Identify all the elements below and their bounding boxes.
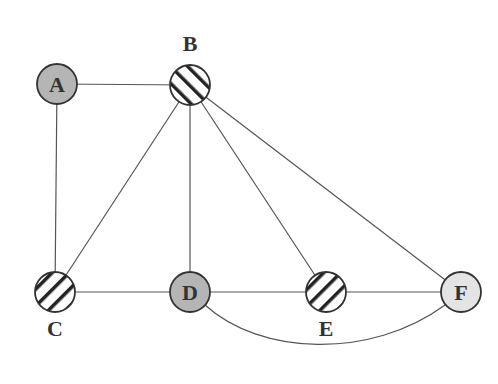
node-b-label: B — [183, 31, 198, 56]
node-f-label: F — [454, 280, 467, 305]
node-f: F — [441, 272, 481, 312]
edge-b-f — [190, 85, 461, 292]
node-c: C — [35, 272, 75, 341]
node-c-label: C — [47, 316, 63, 341]
node-d-label: D — [182, 280, 198, 305]
edge-b-c — [55, 85, 190, 292]
edge-a-c — [55, 84, 57, 292]
node-b: B — [170, 31, 210, 105]
edge-b-e — [190, 85, 326, 292]
node-a-label: A — [49, 72, 65, 97]
node-d: D — [170, 272, 210, 312]
graph-diagram: A B C D E F — [0, 0, 498, 384]
node-e: E — [306, 272, 346, 341]
node-e-label: E — [319, 316, 334, 341]
node-a: A — [37, 64, 77, 104]
